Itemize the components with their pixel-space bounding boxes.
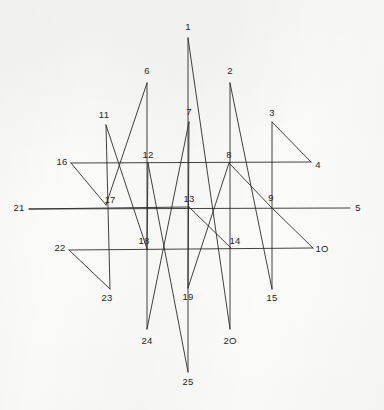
edge-layer: [29, 38, 350, 372]
vertex-label-7: 7: [186, 107, 191, 117]
vertex-label-11: 11: [99, 110, 109, 120]
edge-22-23: [69, 250, 110, 289]
vertex-label-19: 19: [183, 292, 194, 302]
vertex-label-13: 13: [184, 194, 195, 204]
vertex-label-16: 16: [57, 157, 68, 167]
vertex-label-8: 8: [226, 150, 231, 160]
vertex-label-23: 23: [102, 293, 113, 303]
vertex-label-3: 3: [269, 108, 274, 118]
edge-23-11: [106, 125, 110, 289]
figure-canvas: 1234567891O1112131415161718192O212223242…: [0, 0, 384, 410]
vertex-label-24: 24: [142, 336, 153, 346]
vertex-label-25: 25: [183, 377, 194, 387]
vertex-label-5: 5: [355, 203, 360, 213]
vertex-label-15: 15: [267, 293, 278, 303]
edge-9-10: [271, 207, 313, 248]
edge-10-22: [69, 248, 313, 250]
vertex-label-9: 9: [268, 193, 273, 203]
vertex-label-4: 4: [315, 160, 320, 170]
edge-1-20: [188, 38, 230, 329]
vertex-label-20: 2O: [223, 336, 236, 346]
edge-16-17: [71, 163, 106, 205]
zigzag-polyline-diagram: [0, 0, 384, 410]
edge-3-4: [272, 122, 311, 162]
vertex-label-12: 12: [143, 150, 154, 160]
vertex-label-22: 22: [55, 243, 66, 253]
vertex-label-2: 2: [227, 66, 232, 76]
vertex-label-1: 1: [185, 22, 190, 32]
vertex-label-14: 14: [230, 236, 241, 246]
vertex-label-21: 21: [14, 203, 25, 213]
vertex-label-18: 18: [139, 236, 150, 246]
vertex-label-6: 6: [144, 66, 149, 76]
edge-12-25: [148, 163, 188, 372]
vertex-label-17: 17: [105, 195, 116, 205]
edge-8-9: [229, 163, 271, 207]
edge-13-14: [189, 207, 231, 248]
vertex-label-10: 1O: [315, 244, 328, 254]
